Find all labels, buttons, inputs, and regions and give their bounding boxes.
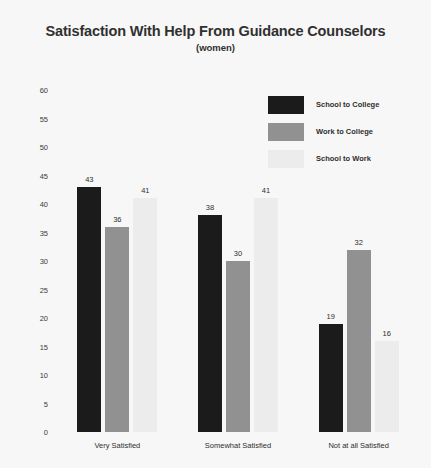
y-axis-tick-label: 40 xyxy=(40,200,48,209)
bar-group: 383041Somewhat Satisfied xyxy=(178,90,299,432)
bar: 36 xyxy=(105,227,129,432)
bar-value-label: 41 xyxy=(262,186,270,195)
bar-value-label: 19 xyxy=(326,312,334,321)
title-block: Satisfaction With Help From Guidance Cou… xyxy=(0,22,431,55)
y-axis-tick-label: 45 xyxy=(40,171,48,180)
bar-value-label: 16 xyxy=(382,329,390,338)
legend-swatch xyxy=(268,96,304,114)
bar: 30 xyxy=(226,261,250,432)
bar: 32 xyxy=(347,250,371,432)
y-axis-tick-label: 20 xyxy=(40,314,48,323)
legend-label: School to Work xyxy=(316,154,371,163)
bar-group: 433641Very Satisfied xyxy=(57,90,178,432)
bar-group: 193216Not at all Satisfied xyxy=(298,90,419,432)
y-axis-tick-label: 30 xyxy=(40,257,48,266)
bar-value-label: 38 xyxy=(206,203,214,212)
y-axis-tick-label: 35 xyxy=(40,228,48,237)
y-axis-tick-label: 15 xyxy=(40,342,48,351)
legend-label: School to College xyxy=(316,100,379,109)
bar-value-label: 43 xyxy=(85,175,93,184)
x-axis-category-label: Very Satisfied xyxy=(94,441,140,450)
y-axis-tick-label: 55 xyxy=(40,114,48,123)
y-axis-tick-label: 60 xyxy=(40,86,48,95)
y-axis-tick-label: 25 xyxy=(40,285,48,294)
bar: 41 xyxy=(133,198,157,432)
bar-value-label: 30 xyxy=(234,249,242,258)
legend-swatch xyxy=(268,150,304,168)
bar-value-label: 41 xyxy=(141,186,149,195)
x-axis-category-label: Not at all Satisfied xyxy=(328,441,388,450)
x-axis-category-label: Somewhat Satisfied xyxy=(205,441,271,450)
bar-value-label: 32 xyxy=(354,238,362,247)
y-axis-tick-label: 10 xyxy=(40,371,48,380)
y-axis-tick-label: 5 xyxy=(44,399,48,408)
bar-value-label: 36 xyxy=(113,215,121,224)
legend-swatch xyxy=(268,123,304,141)
bar: 19 xyxy=(319,324,343,432)
y-axis-tick-label: 0 xyxy=(44,428,48,437)
bar: 43 xyxy=(77,187,101,432)
y-axis-tick-label: 50 xyxy=(40,143,48,152)
bar: 16 xyxy=(375,341,399,432)
bar: 41 xyxy=(254,198,278,432)
bar: 38 xyxy=(198,215,222,432)
legend-label: Work to College xyxy=(316,127,373,136)
page-title: Satisfaction With Help From Guidance Cou… xyxy=(0,22,431,40)
chart-subtitle: (women) xyxy=(0,41,431,55)
bar-chart: Satisfaction With Help From Guidance Cou… xyxy=(0,0,431,468)
plot-area: 605550454035302520151050433641Very Satis… xyxy=(57,90,419,432)
